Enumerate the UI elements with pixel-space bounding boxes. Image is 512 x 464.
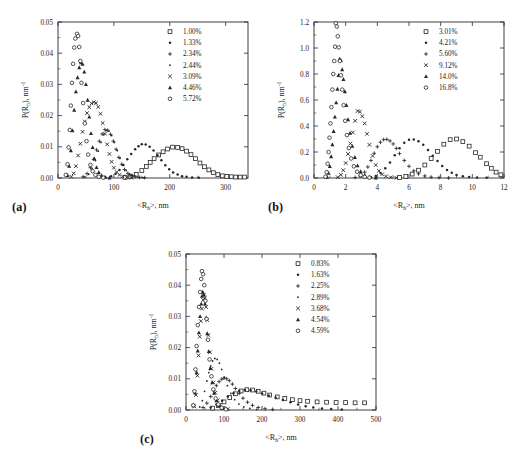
data-point-filled-circle — [330, 408, 333, 411]
data-point-dot — [125, 170, 127, 172]
data-point-open-circle — [69, 104, 73, 108]
data-point-cross — [424, 63, 428, 67]
data-point-filled-circle — [181, 175, 184, 178]
data-point-open-circle — [217, 403, 221, 407]
data-point-filled-circle — [304, 405, 307, 408]
data-point-open-square — [220, 174, 224, 178]
data-point-dot — [230, 393, 232, 395]
data-point-cross — [101, 121, 105, 125]
panel-a-label: (a) — [12, 200, 27, 215]
data-point-dot — [243, 406, 245, 408]
data-point-open-circle — [363, 175, 367, 179]
data-point-cross — [96, 105, 100, 109]
legend-label: 4.21% — [439, 39, 458, 47]
data-point-filled-triangle — [89, 131, 93, 135]
data-point-open-circle — [197, 305, 201, 309]
data-point-cross — [198, 335, 202, 339]
x-tick-label: 2 — [344, 184, 348, 192]
data-point-filled-circle — [227, 395, 230, 398]
legend: 1.00%1.33%2.34%2.44%3.09%4.46%5.72% — [168, 28, 202, 103]
y-tick-label: 0.8 — [300, 71, 309, 79]
data-point-open-square — [353, 401, 357, 405]
data-point-open-circle — [355, 170, 359, 174]
data-point-open-circle — [91, 169, 95, 173]
legend-label: 16.8% — [439, 84, 458, 92]
x-tick-label: 0 — [312, 184, 316, 192]
data-point-dot — [204, 390, 206, 392]
data-point-cross — [339, 173, 343, 177]
data-point-dot — [249, 408, 251, 410]
y-axis-title: P(Rh), nm-1 — [148, 313, 159, 350]
x-tick-label: 200 — [257, 416, 268, 424]
data-point-open-circle — [204, 299, 208, 303]
data-point-cross — [365, 132, 369, 136]
panel-c-plot: 01002003004005000.000.010.020.030.040.05… — [128, 232, 384, 464]
data-point-open-circle — [193, 389, 197, 393]
data-point-filled-triangle — [97, 170, 101, 174]
data-point-plus — [168, 52, 172, 56]
data-point-plus — [398, 152, 402, 156]
data-point-open-square — [474, 151, 478, 155]
data-point-open-circle — [332, 72, 336, 76]
data-point-open-square — [424, 30, 428, 34]
data-point-filled-circle — [209, 406, 212, 409]
panel-c-label: (c) — [140, 432, 154, 447]
data-point-filled-triangle — [329, 154, 333, 158]
data-point-open-circle — [326, 162, 330, 166]
data-point-cross — [105, 143, 109, 147]
data-point-filled-circle — [476, 176, 479, 179]
data-point-open-square — [166, 147, 170, 151]
x-axis-title: <Rh>, nm — [393, 201, 425, 211]
data-point-filled-triangle — [330, 142, 334, 146]
data-point-filled-circle — [468, 176, 471, 179]
legend-label: 0.83% — [311, 260, 330, 268]
data-point-plus — [271, 407, 275, 411]
series-1.00pct — [123, 145, 246, 179]
data-point-filled-circle — [485, 177, 488, 180]
y-tick-label: 0.01 — [40, 143, 53, 151]
data-point-filled-circle — [422, 144, 425, 147]
data-point-filled-circle — [321, 407, 324, 410]
data-point-open-circle — [352, 165, 356, 169]
data-point-filled-circle — [176, 173, 179, 176]
data-point-cross — [371, 154, 375, 158]
data-point-cross — [168, 75, 172, 79]
data-point-filled-triangle — [74, 89, 78, 93]
data-point-filled-circle — [425, 42, 428, 45]
legend-label: 5.72% — [183, 95, 202, 103]
data-point-open-circle — [347, 146, 351, 150]
legend-label: 2.34% — [183, 50, 202, 58]
data-point-dot — [111, 135, 113, 137]
data-point-filled-circle — [156, 154, 159, 157]
data-point-filled-circle — [427, 149, 430, 152]
data-point-filled-circle — [134, 148, 137, 151]
legend-label: 4.54% — [311, 316, 330, 324]
x-tick-label: 6 — [407, 184, 411, 192]
series-3.01pct — [398, 137, 503, 179]
data-point-dot — [122, 164, 124, 166]
data-point-open-circle — [79, 59, 83, 63]
data-point-dot — [129, 173, 131, 175]
data-point-filled-circle — [160, 159, 163, 162]
data-point-open-circle — [329, 122, 333, 126]
plot-frame — [186, 254, 376, 410]
data-point-dot — [219, 362, 221, 364]
data-point-plus — [353, 176, 357, 180]
data-point-dot — [199, 406, 201, 408]
y-tick-label: 0.03 — [40, 81, 53, 89]
data-point-filled-triangle — [197, 330, 201, 334]
data-point-open-square — [423, 163, 427, 167]
data-point-filled-triangle — [77, 65, 81, 69]
data-point-open-square — [225, 175, 229, 179]
data-point-cross — [377, 169, 381, 173]
legend-label: 4.59% — [311, 327, 330, 335]
data-point-filled-circle — [232, 392, 235, 395]
data-point-open-square — [291, 398, 295, 402]
data-point-open-circle — [97, 175, 101, 179]
data-point-open-circle — [66, 162, 70, 166]
data-point-filled-circle — [462, 175, 465, 178]
data-point-open-square — [448, 138, 452, 142]
data-point-filled-triangle — [76, 75, 80, 79]
data-point-filled-circle — [169, 42, 172, 45]
data-point-open-square — [494, 170, 498, 174]
